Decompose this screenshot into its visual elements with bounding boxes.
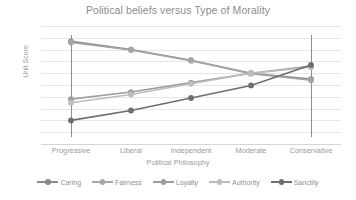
legend-marker-icon xyxy=(209,178,230,186)
data-point-marker xyxy=(68,40,74,46)
series-plot xyxy=(41,26,341,144)
data-point-marker xyxy=(248,83,254,89)
legend-label: Fairness xyxy=(115,179,142,186)
data-point-marker xyxy=(68,100,74,106)
legend-marker-icon xyxy=(92,178,113,186)
gridline xyxy=(41,144,341,145)
legend-label: Authority xyxy=(232,179,260,186)
series-line xyxy=(71,65,311,120)
data-point-marker xyxy=(188,58,194,64)
legend-marker-icon xyxy=(153,178,174,186)
legend-label: Caring xyxy=(60,179,81,186)
legend-label: Sanctity xyxy=(294,179,319,186)
plot-area: 54.543.532.521.510.50 xyxy=(41,26,341,144)
legend-item[interactable]: Authority xyxy=(209,178,260,186)
x-axis-tick-label: Conservative xyxy=(269,146,353,155)
legend-item[interactable]: Caring xyxy=(37,178,81,186)
data-point-marker xyxy=(68,118,74,124)
data-point-marker xyxy=(128,108,134,114)
data-point-marker xyxy=(188,95,194,101)
data-point-marker xyxy=(128,47,134,53)
chart-legend: CaringFairnessLoyaltyAuthoritySanctity xyxy=(0,178,356,186)
legend-item[interactable]: Loyalty xyxy=(153,178,198,186)
data-point-marker xyxy=(188,81,194,87)
x-axis-title: Political Philosophy xyxy=(0,158,356,167)
data-point-marker xyxy=(128,92,134,98)
legend-marker-icon xyxy=(37,178,58,186)
legend-item[interactable]: Sanctity xyxy=(271,178,319,186)
legend-marker-icon xyxy=(271,178,292,186)
data-point-marker xyxy=(308,62,314,68)
data-point-marker xyxy=(248,70,254,76)
data-point-marker xyxy=(308,77,314,83)
legend-item[interactable]: Fairness xyxy=(92,178,142,186)
chart-title: Political beliefs versus Type of Moralit… xyxy=(0,4,356,16)
line-chart-figure: Political beliefs versus Type of Moralit… xyxy=(0,0,356,200)
legend-label: Loyalty xyxy=(176,179,198,186)
y-axis-title: Unit Score xyxy=(22,32,29,92)
